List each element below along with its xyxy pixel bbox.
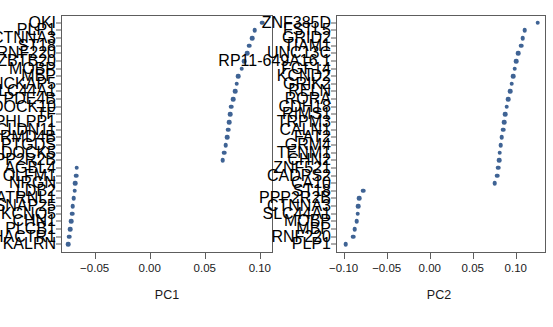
- y-axis-tick: [56, 68, 61, 69]
- y-axis-tick: [331, 91, 336, 92]
- y-axis-tick: [331, 144, 336, 145]
- y-axis-tick: [56, 60, 61, 61]
- y-axis-tick: [331, 76, 336, 77]
- data-point: [523, 28, 528, 33]
- data-point: [495, 173, 500, 178]
- x-axis-tick-label: 0.05: [194, 262, 216, 274]
- y-axis-tick: [56, 106, 61, 107]
- data-point: [70, 211, 75, 216]
- data-point: [228, 112, 233, 117]
- y-axis-tick: [56, 37, 61, 38]
- panel-pc2: ZNF385DFSTL5GRID2TIAM1UNC13CRP11-649A16.…: [276, 0, 552, 327]
- y-axis-tick: [56, 144, 61, 145]
- data-point: [499, 143, 504, 148]
- y-axis-tick: [331, 37, 336, 38]
- x-axis-tick: [387, 253, 388, 259]
- data-point: [233, 89, 238, 94]
- x-axis-tick: [205, 253, 206, 259]
- data-point: [351, 234, 356, 239]
- plot-area: [61, 15, 273, 253]
- x-axis-tick: [344, 253, 345, 259]
- y-axis-tick: [331, 206, 336, 207]
- data-point: [501, 127, 506, 132]
- gene-label: PLP1: [292, 235, 331, 253]
- x-axis-tick-label: 0.10: [505, 262, 527, 274]
- x-axis-title: PC1: [155, 288, 179, 302]
- y-axis-tick: [331, 221, 336, 222]
- y-axis-tick: [331, 190, 336, 191]
- y-axis-tick: [56, 198, 61, 199]
- x-axis-tick: [150, 253, 151, 259]
- data-point: [236, 74, 241, 79]
- data-point: [67, 234, 72, 239]
- y-axis-tick: [56, 137, 61, 138]
- y-axis-tick: [56, 45, 61, 46]
- data-point: [231, 97, 236, 102]
- y-axis-tick: [331, 22, 336, 23]
- x-axis-tick-label: 0.05: [462, 262, 484, 274]
- pca-loadings-figure: QKIPLP1CTNNA3ST18RNF220ZBTB20MOBPMBPNCKA…: [0, 0, 553, 327]
- y-axis-tick: [56, 83, 61, 84]
- y-axis-tick: [331, 213, 336, 214]
- y-axis-tick: [56, 129, 61, 130]
- data-point: [73, 181, 78, 186]
- y-axis-tick: [56, 221, 61, 222]
- y-axis-tick: [56, 91, 61, 92]
- x-axis-tick: [516, 253, 517, 259]
- data-point: [71, 204, 76, 209]
- y-axis-tick: [331, 53, 336, 54]
- y-axis-tick: [331, 122, 336, 123]
- x-axis-tick-label: 0.10: [249, 262, 271, 274]
- data-point: [75, 166, 80, 171]
- y-axis-tick: [331, 60, 336, 61]
- data-point: [519, 43, 524, 48]
- data-point: [69, 219, 74, 224]
- y-axis-tick: [331, 99, 336, 100]
- y-axis-tick: [56, 229, 61, 230]
- data-point: [492, 181, 497, 186]
- data-point: [226, 127, 231, 132]
- x-axis-tick-label: 0.00: [139, 262, 161, 274]
- data-point: [511, 74, 516, 79]
- data-point: [500, 135, 505, 140]
- data-point: [354, 219, 359, 224]
- y-axis-tick: [331, 198, 336, 199]
- plot-area: [336, 15, 546, 253]
- y-axis-tick: [331, 45, 336, 46]
- x-axis-tick-label: −0.10: [329, 262, 358, 274]
- x-axis-tick: [260, 253, 261, 259]
- y-axis-tick: [331, 175, 336, 176]
- x-axis-tick-label: 0.00: [419, 262, 441, 274]
- y-axis-tick: [56, 183, 61, 184]
- y-axis-tick: [331, 160, 336, 161]
- y-axis-tick: [56, 114, 61, 115]
- x-axis-tick: [95, 253, 96, 259]
- y-axis-tick: [56, 160, 61, 161]
- y-axis-tick: [331, 183, 336, 184]
- x-axis-tick-label: −0.05: [372, 262, 401, 274]
- y-axis-tick: [331, 236, 336, 237]
- y-axis-tick: [56, 22, 61, 23]
- y-axis-tick: [331, 167, 336, 168]
- y-axis-tick: [331, 114, 336, 115]
- y-axis-tick: [56, 30, 61, 31]
- gene-label: KALRN: [3, 235, 56, 253]
- data-point: [504, 104, 509, 109]
- data-point: [497, 158, 502, 163]
- data-point: [74, 173, 79, 178]
- y-axis-tick: [331, 30, 336, 31]
- y-axis-tick: [56, 244, 61, 245]
- y-axis-tick: [331, 83, 336, 84]
- y-axis-tick: [56, 122, 61, 123]
- data-point: [509, 82, 514, 87]
- data-point: [514, 59, 519, 64]
- y-axis-tick: [331, 244, 336, 245]
- y-axis-tick: [56, 76, 61, 77]
- y-axis-tick: [56, 152, 61, 153]
- y-axis-tick: [56, 206, 61, 207]
- y-axis-tick: [56, 190, 61, 191]
- data-point: [516, 51, 521, 56]
- y-axis-tick: [56, 99, 61, 100]
- x-axis-tick: [473, 253, 474, 259]
- data-point: [247, 43, 252, 48]
